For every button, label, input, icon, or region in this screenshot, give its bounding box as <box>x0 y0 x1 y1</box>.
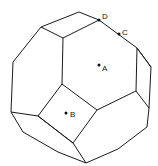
outer-silhouette <box>11 12 151 163</box>
label-d: D <box>102 12 108 21</box>
left-edge <box>11 112 38 116</box>
label-b: B <box>70 110 75 119</box>
square-face-b <box>38 84 97 143</box>
bottom-edge-left <box>38 116 73 143</box>
point-d: D <box>98 12 109 22</box>
point-b: B <box>65 110 76 119</box>
label-c: C <box>122 28 128 37</box>
truncated-octahedron-diagram: A B C D <box>0 0 158 166</box>
top-face-edges <box>41 20 99 38</box>
point-a: A <box>98 64 109 74</box>
hexagon-face-a <box>62 38 137 110</box>
right-edge-upper <box>137 48 151 67</box>
label-a: A <box>102 64 108 73</box>
point-c: C <box>118 28 129 37</box>
right-edge-lower <box>136 91 149 108</box>
